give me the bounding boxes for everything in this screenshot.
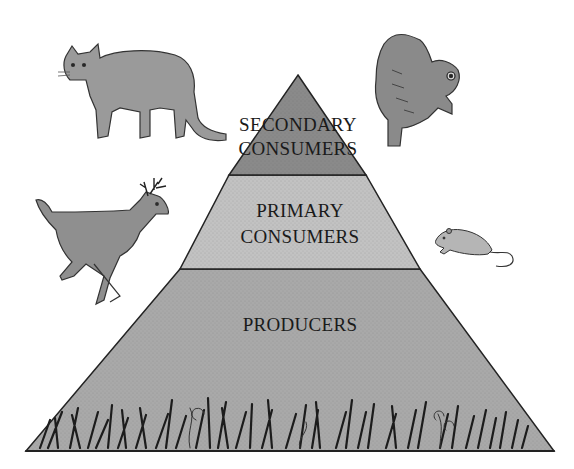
mountain-lion-icon: [58, 44, 226, 141]
tier-label-primary-line2: CONSUMERS: [241, 226, 360, 247]
tier-label-producers: PRODUCERS: [243, 314, 358, 335]
tier-secondary-consumers: SECONDARY CONSUMERS: [229, 75, 366, 175]
tier-label-secondary-line1: SECONDARY: [239, 114, 357, 135]
tier-label-primary-line1: PRIMARY: [256, 200, 344, 221]
food-pyramid-diagram: PRODUCERS PRIMARY CONSUMERS SECONDARY CO…: [0, 0, 574, 469]
owl-icon: [376, 35, 460, 147]
tier-label-secondary-line2: CONSUMERS: [239, 138, 358, 159]
deer-icon: [36, 178, 168, 304]
tier-primary-consumers: PRIMARY CONSUMERS: [180, 175, 420, 269]
mouse-icon: [435, 229, 513, 267]
